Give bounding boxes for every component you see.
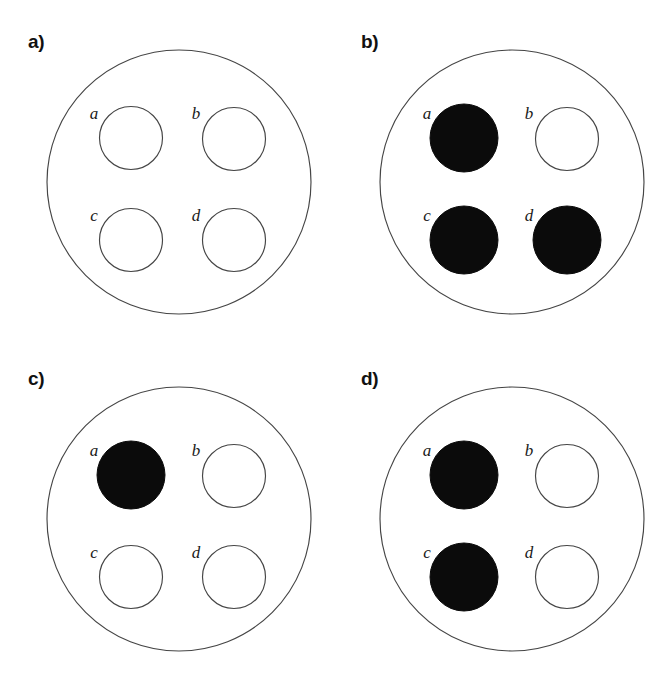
panel-c: abcdc) <box>0 337 333 673</box>
panel-c-caption: c) <box>28 369 44 388</box>
panel-a-label-d: d <box>192 206 201 225</box>
panel-b-outer-circle <box>380 50 644 314</box>
panel-a-label-a: a <box>90 104 99 123</box>
panel-c-circle-a[interactable] <box>97 441 165 509</box>
panel-a-diagram: abcd <box>0 0 333 336</box>
panel-d-outer-circle <box>380 387 644 651</box>
panel-d-caption: d) <box>361 369 378 388</box>
panel-b-label-b: b <box>525 104 534 123</box>
panel-c-label-d: d <box>192 543 201 562</box>
panel-a-label-b: b <box>192 104 201 123</box>
panel-b-label-a: a <box>423 104 432 123</box>
panel-b-circle-a[interactable] <box>430 104 498 172</box>
panel-c-label-a: a <box>90 441 99 460</box>
panel-b-diagram: abcd <box>333 0 666 336</box>
panel-a-caption: a) <box>28 32 44 51</box>
panel-d-diagram: abcd <box>333 337 666 673</box>
panel-d-label-a: a <box>423 441 432 460</box>
panel-a: abcda) <box>0 0 333 336</box>
panel-b-caption: b) <box>361 32 378 51</box>
panel-c-label-b: b <box>192 441 201 460</box>
panel-d-label-d: d <box>525 543 534 562</box>
panel-a-label-c: c <box>90 206 98 225</box>
panel-b-label-d: d <box>525 206 534 225</box>
panel-c-label-c: c <box>90 543 98 562</box>
panel-b-label-c: c <box>423 206 431 225</box>
panel-d-circle-d[interactable] <box>536 546 599 609</box>
panel-a-circle-d[interactable] <box>203 209 266 272</box>
panel-c-diagram: abcd <box>0 337 333 673</box>
panel-a-circle-c[interactable] <box>100 209 163 272</box>
panel-d-circle-c[interactable] <box>430 543 498 611</box>
panel-d-circle-a[interactable] <box>430 441 498 509</box>
panel-b-circle-b[interactable] <box>536 108 599 171</box>
panel-c-outer-circle <box>47 387 311 651</box>
panel-d-circle-b[interactable] <box>536 445 599 508</box>
panel-c-circle-c[interactable] <box>100 546 163 609</box>
panel-b-circle-d[interactable] <box>533 206 601 274</box>
panel-a-circle-b[interactable] <box>203 108 266 171</box>
panel-a-outer-circle <box>47 50 311 314</box>
panel-c-circle-d[interactable] <box>203 546 266 609</box>
panel-c-circle-b[interactable] <box>203 445 266 508</box>
panel-d-label-c: c <box>423 543 431 562</box>
panel-b-circle-c[interactable] <box>430 206 498 274</box>
figure-root: abcda)abcdb)abcdc)abcdd) <box>0 0 666 673</box>
panel-a-circle-a[interactable] <box>100 107 163 170</box>
panel-b: abcdb) <box>333 0 666 336</box>
panel-d: abcdd) <box>333 337 666 673</box>
panel-d-label-b: b <box>525 441 534 460</box>
